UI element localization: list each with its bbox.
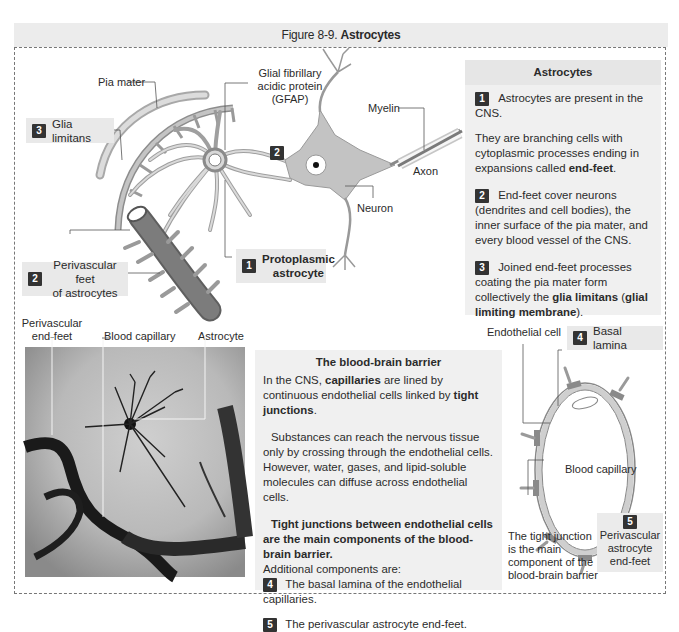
bbb-p3-rest: Additional components are: [263, 562, 494, 577]
astrocytes-item-2: 2 End-feet cover neurons (dendrites and … [475, 188, 651, 248]
tight-junction-line3: component of the [508, 556, 598, 569]
item3-end: ). [576, 306, 583, 318]
tight-junction-line2: is the main [508, 543, 598, 556]
perivascular-endfeet-line3: end-feet [597, 555, 663, 568]
astrocytes-item-1-text: Astrocytes are present in the CNS. [475, 92, 643, 119]
pia-mater-label: Pia mater [98, 76, 145, 89]
badge-3: 3 [32, 124, 46, 138]
astrocytes-panel-header: Astrocytes [465, 60, 661, 85]
tight-junction-line4: blood-brain barrier [508, 569, 598, 582]
bbb-p1-e: . [314, 404, 317, 416]
para1-bold: end-feet [569, 162, 613, 174]
axon-label: Axon [413, 165, 438, 178]
para1-end: . [613, 162, 616, 174]
bbb-p1-a: In the CNS, [263, 374, 325, 386]
basal-lamina-label: 4 Basal lamina [567, 326, 663, 350]
astrocytes-item-2-text: End-feet cover neurons (dendrites and ce… [475, 189, 648, 246]
perivascular-line1: Perivascular [20, 317, 84, 330]
bbb-p3-bold: Tight junctions between endothelial cell… [263, 518, 493, 560]
perivascular-endfeet-line2: astrocyte [597, 542, 663, 555]
badge-1: 1 [242, 259, 256, 273]
badge-3: 3 [475, 261, 489, 275]
bbb-panel: The blood-brain barrier In the CNS, capi… [255, 350, 502, 590]
badge-2: 2 [28, 272, 42, 286]
neuron-label: Neuron [357, 202, 393, 215]
astrocytes-para-1: They are branching cells with cytoplasmi… [475, 131, 651, 176]
glia-limitans-label: 3 Glia limitans [26, 118, 114, 143]
badge-5: 5 [263, 618, 277, 632]
bbb-item-4: 4 The basal lamina of the endothelial ca… [263, 577, 494, 607]
perivascular-feet-line1: Perivascular feet [48, 258, 122, 286]
badge-5: 5 [623, 515, 637, 529]
bbb-item-5-text: The perivascular astrocyte end-feet. [285, 618, 467, 630]
endothelial-cell-label: Endothelial cell [487, 326, 561, 339]
badge-4: 4 [573, 331, 587, 345]
badge-4: 4 [263, 578, 277, 592]
protoplasmic-astrocyte-text: Protoplasmic astrocyte [262, 252, 335, 280]
perivascular-astrocyte-end-feet-label: 5 Perivascular astrocyte end-feet [597, 513, 663, 572]
protoplasmic-line1: Protoplasmic [262, 252, 335, 266]
micrograph-leaders [20, 332, 140, 362]
myelin-label: Myelin [368, 102, 400, 115]
bbb-p1-bold-1: capillaries [325, 374, 381, 386]
gfap-line1: Glial fibrillary [250, 67, 330, 80]
bbb-para-1: In the CNS, capillaries are lined by con… [263, 373, 494, 418]
perivascular-endfeet-line1: Perivascular [597, 529, 663, 542]
bbb-item-4-text: The basal lamina of the endothelial capi… [263, 578, 462, 605]
badge-2: 2 [270, 146, 284, 160]
astrocytes-item-3: 3 Joined end-feet processes coating the … [475, 260, 651, 320]
astrocytes-item-1: 1 Astrocytes are present in the CNS. [475, 91, 651, 121]
badge-2: 2 [475, 189, 489, 203]
perivascular-feet-text: Perivascular feet of astrocytes [48, 258, 122, 300]
tight-junction-label: The tight junction is the main component… [508, 530, 598, 582]
bbb-para-2: Substances can reach the nervous tissue … [263, 430, 494, 505]
protoplasmic-line2: astrocyte [262, 266, 335, 280]
blood-capillary-label: Blood capillary [565, 463, 637, 476]
gfap-line2: acidic protein [250, 80, 330, 93]
tight-junction-line1: The tight junction [508, 530, 598, 543]
perivascular-feet-line2: of astrocytes [48, 286, 122, 300]
perivascular-feet-label: 2 Perivascular feet of astrocytes [22, 262, 128, 296]
neuron-badge: 2 [270, 142, 284, 160]
astrocytes-panel: Astrocytes 1 Astrocytes are present in t… [465, 60, 661, 315]
badge-1: 1 [475, 92, 489, 106]
gfap-label: Glial fibrillary acidic protein (GFAP) [250, 67, 330, 106]
bbb-panel-header: The blood-brain barrier [263, 350, 494, 373]
glia-limitans-text: Glia limitans [52, 117, 108, 145]
bbb-para-3: Tight junctions between endothelial cell… [263, 517, 494, 562]
item3-bold-1: glia limitans [552, 291, 618, 303]
bbb-item-5: 5 The perivascular astrocyte end-feet. [263, 617, 494, 632]
gfap-line3: (GFAP) [250, 93, 330, 106]
basal-lamina-text: Basal lamina [593, 324, 657, 352]
micrograph-image [25, 347, 245, 577]
protoplasmic-astrocyte-label: 1 Protoplasmic astrocyte [236, 249, 326, 283]
